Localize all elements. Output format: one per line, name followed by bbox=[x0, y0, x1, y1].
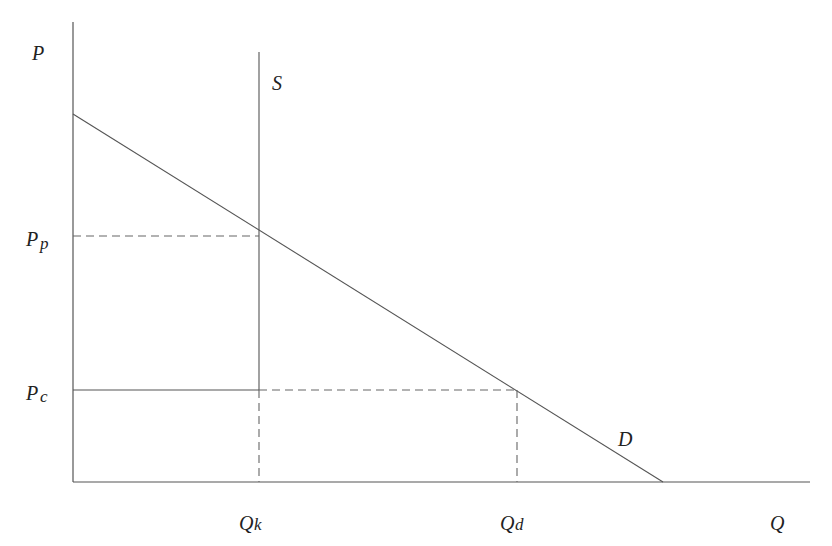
demand-curve bbox=[73, 114, 663, 482]
supply-label: S bbox=[272, 72, 282, 94]
supply-demand-diagram: P S D P p P c Q k Q d Q bbox=[0, 0, 832, 546]
svg-text:Q: Q bbox=[500, 512, 515, 534]
svg-text:d: d bbox=[515, 515, 524, 534]
svg-text:P: P bbox=[25, 382, 38, 404]
y-axis-label: P bbox=[31, 42, 44, 64]
x-axis-label: Q bbox=[770, 512, 785, 534]
svg-text:k: k bbox=[254, 515, 262, 534]
qd-label: Q d bbox=[500, 512, 524, 534]
demand-label: D bbox=[617, 428, 633, 450]
pp-label: P p bbox=[25, 228, 49, 253]
svg-text:c: c bbox=[40, 387, 48, 406]
pc-label: P c bbox=[25, 382, 48, 406]
svg-text:Q: Q bbox=[239, 512, 254, 534]
svg-text:P: P bbox=[25, 228, 38, 250]
qk-label: Q k bbox=[239, 512, 262, 534]
svg-text:p: p bbox=[39, 234, 49, 253]
